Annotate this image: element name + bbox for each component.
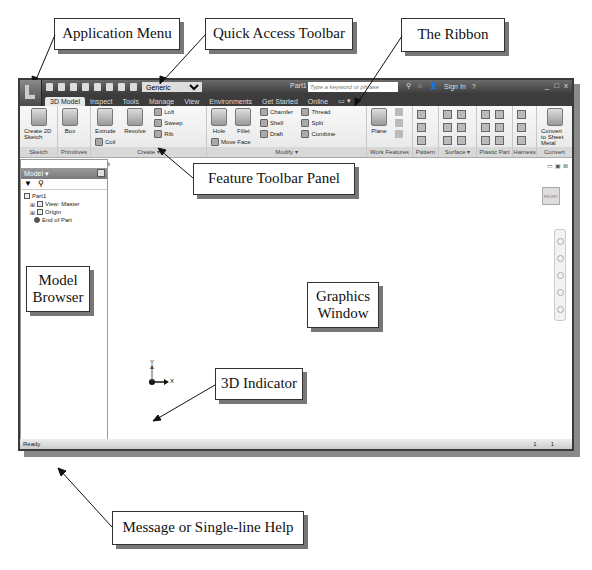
harness-icon-2[interactable]: [517, 123, 526, 132]
revolve-icon: [127, 108, 143, 126]
move-face-icon: [211, 138, 219, 146]
rest-icon[interactable]: [481, 123, 490, 132]
rect-pattern-icon[interactable]: [417, 110, 426, 119]
thicken-icon[interactable]: [443, 110, 452, 119]
tab-online[interactable]: Online: [303, 97, 333, 106]
rule-fillet-icon[interactable]: [481, 136, 490, 145]
search-input[interactable]: [308, 82, 398, 92]
tree-item-end-of-part[interactable]: End of Part: [24, 216, 104, 224]
box-button[interactable]: Box: [62, 108, 78, 134]
plane-button[interactable]: Plane: [371, 108, 387, 134]
hole-button[interactable]: Hole: [211, 108, 227, 134]
material-icon[interactable]: [130, 83, 137, 91]
pan-icon[interactable]: [557, 255, 564, 262]
print-icon[interactable]: [106, 83, 113, 91]
zoom-icon[interactable]: [557, 272, 564, 279]
mirror-icon[interactable]: [417, 136, 426, 145]
tree-item-origin[interactable]: ⊞Origin: [24, 208, 104, 216]
tree-item-part1[interactable]: Part1: [24, 192, 104, 200]
panel-convert: Convert to Sheet Metal Convert: [537, 106, 572, 157]
viewcube[interactable]: FRONT: [542, 187, 560, 205]
steering-wheel-icon[interactable]: [557, 238, 564, 245]
harness-icon-1[interactable]: [517, 110, 526, 119]
open-icon[interactable]: [58, 83, 65, 91]
ucs-icon[interactable]: [395, 130, 403, 138]
snap-fit-icon[interactable]: [495, 123, 504, 132]
chamfer-button[interactable]: Chamfer: [260, 108, 293, 116]
maximize-button[interactable]: □: [554, 81, 559, 90]
application-menu-button[interactable]: [20, 80, 42, 106]
tab-environments[interactable]: Environments: [204, 97, 257, 106]
tab-inspect[interactable]: Inspect: [85, 97, 118, 106]
close-button[interactable]: x: [564, 81, 568, 90]
draft-button[interactable]: Draft: [260, 130, 293, 138]
sweep-button[interactable]: Sweep: [154, 119, 182, 127]
plane-icon: [371, 108, 387, 126]
grill-icon[interactable]: [481, 110, 490, 119]
shell-button[interactable]: Shell: [260, 119, 293, 127]
revolve-button[interactable]: Revolve: [124, 108, 146, 134]
extrude-button[interactable]: Extrude: [95, 108, 116, 134]
minimize-button[interactable]: _: [545, 81, 549, 90]
boss-icon[interactable]: [495, 110, 504, 119]
circ-pattern-icon[interactable]: [417, 123, 426, 132]
combine-button[interactable]: Combine: [301, 130, 335, 138]
fillet-button[interactable]: Fillet: [235, 108, 251, 134]
thread-button[interactable]: Thread: [301, 108, 335, 116]
browser-menu-icon[interactable]: [97, 169, 105, 177]
trim-icon[interactable]: [443, 136, 452, 145]
tab-tools[interactable]: Tools: [118, 97, 144, 106]
user-icon[interactable]: 👤: [429, 82, 438, 90]
hole-icon: [211, 108, 227, 126]
axis-icon[interactable]: [395, 108, 403, 116]
tab-3d-model[interactable]: 3D Model: [45, 97, 85, 106]
undo-icon[interactable]: [82, 83, 89, 91]
lip-icon[interactable]: [495, 136, 504, 145]
split-button[interactable]: Split: [301, 119, 335, 127]
sheet-metal-icon: [547, 108, 563, 126]
sign-in-link[interactable]: Sign In: [444, 83, 466, 90]
orbit-icon[interactable]: [557, 289, 564, 296]
extend-icon[interactable]: [457, 136, 466, 145]
expand-icon[interactable]: ⊞: [30, 209, 35, 216]
rib-button[interactable]: Rib: [154, 130, 182, 138]
update-icon[interactable]: [118, 83, 125, 91]
help-icon[interactable]: ?: [472, 83, 476, 90]
create-panel-dropdown[interactable]: Create ▾: [91, 147, 206, 157]
tab-extra[interactable]: ▭ ▾: [333, 96, 356, 106]
coil-button[interactable]: Coil: [95, 138, 127, 146]
look-at-icon[interactable]: [557, 306, 564, 313]
style-select[interactable]: Generic: [142, 82, 202, 92]
tab-manage[interactable]: Manage: [144, 97, 179, 106]
surface-panel-dropdown[interactable]: Surface ▾: [439, 147, 476, 157]
browser-title-dropdown[interactable]: Model ▾: [24, 170, 49, 177]
loft-button[interactable]: Loft: [154, 108, 182, 116]
modify-panel-dropdown[interactable]: Modify ▾: [207, 147, 366, 157]
binoculars-icon[interactable]: ⚲: [406, 82, 411, 90]
folder-icon: [37, 209, 43, 215]
patch-icon[interactable]: [457, 123, 466, 132]
move-face-button[interactable]: Move Face: [211, 138, 256, 146]
expand-icon[interactable]: ⊞: [30, 201, 35, 208]
tree-item-view[interactable]: ⊞View: Master: [24, 200, 104, 208]
sculpt-icon[interactable]: [443, 123, 452, 132]
new-icon[interactable]: [46, 83, 53, 91]
title-right-tools: ⚲ ☆ 👤 Sign In ?: [406, 82, 476, 90]
minimize-doc-icon[interactable]: ▭: [547, 162, 553, 169]
tab-get-started[interactable]: Get Started: [257, 97, 303, 106]
redo-icon[interactable]: [94, 83, 101, 91]
stitch-icon[interactable]: [457, 110, 466, 119]
convert-sheet-metal-button[interactable]: Convert to Sheet Metal: [541, 108, 568, 146]
close-doc-icon[interactable]: ⊠: [563, 162, 568, 169]
chamfer-icon: [260, 108, 268, 116]
window-controls: _ □ x: [545, 81, 568, 90]
restore-doc-icon[interactable]: ▣: [555, 162, 561, 169]
harness-icon-3[interactable]: [517, 136, 526, 145]
star-icon[interactable]: ☆: [417, 82, 423, 90]
tab-view[interactable]: View: [179, 97, 204, 106]
find-binoculars-icon[interactable]: ⚲: [38, 179, 44, 189]
point-icon[interactable]: [395, 119, 403, 127]
save-icon[interactable]: [70, 83, 77, 91]
filter-icon[interactable]: ▼: [24, 179, 32, 189]
create-2d-sketch-button[interactable]: Create 2D Sketch: [24, 108, 53, 140]
